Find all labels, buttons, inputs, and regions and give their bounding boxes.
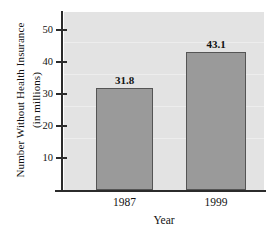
y-tick-label-10: 10 — [34, 153, 53, 163]
y-tick-mark-10 — [56, 157, 67, 159]
y-tick-label-wrap-30: 30 — [34, 89, 53, 99]
y-tick-label-wrap-50: 50 — [34, 25, 53, 35]
y-tick-mark-30 — [56, 93, 67, 95]
bar-value-label-1999: 43.1 — [176, 38, 256, 50]
y-axis-line — [61, 11, 63, 192]
y-tick-label-wrap-20: 20 — [34, 121, 53, 131]
x-axis-title: Year — [64, 214, 264, 227]
y-tick-mark-20 — [56, 125, 67, 127]
y-tick-label-40: 40 — [34, 57, 53, 67]
bar-value-label-1987: 31.8 — [86, 74, 163, 86]
y-tick-label-wrap-10: 10 — [34, 153, 53, 163]
x-category-label-1999: 1999 — [168, 196, 264, 209]
y-tick-label-30: 30 — [34, 89, 53, 99]
y-tick-label-20: 20 — [34, 121, 53, 131]
y-tick-label-50: 50 — [34, 25, 53, 35]
bar-1987 — [96, 88, 153, 190]
x-category-label-1987: 1987 — [78, 196, 171, 209]
y-axis-title-line-1: Number Without Health Insurance — [13, 10, 27, 190]
y-tick-label-wrap-40: 40 — [34, 57, 53, 67]
y-axis-title-line-2: (in millions) — [29, 10, 43, 190]
y-tick-mark-40 — [56, 61, 67, 63]
bar-1999 — [186, 52, 246, 190]
bar-chart-figure: Number Without Health Insurance (in mill… — [0, 0, 279, 236]
y-tick-mark-50 — [56, 29, 67, 31]
x-axis-line — [55, 190, 266, 192]
